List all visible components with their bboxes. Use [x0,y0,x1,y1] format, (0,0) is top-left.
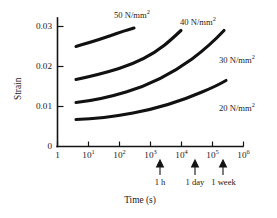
curve-label-40-exp: 2 [213,15,216,22]
x-tick-label-10e4: 104 [169,151,194,160]
creep-curve-40 [76,31,181,80]
x-tick-exp-10e4: 4 [184,148,187,155]
x-tick-exp-10e6: 6 [246,148,249,155]
x-tick-label-10e3: 103 [138,151,163,160]
time-marker-label-1week: 1 week [203,178,244,187]
arrow-1day [192,160,199,175]
curve-label-30: 30 N/mm2 [219,56,255,65]
x-tick-label-10e6: 106 [231,151,256,160]
x-tick-base-1: 1 [55,150,60,160]
time-marker-arrows [157,160,227,175]
curve-label-50-base: 50 N/mm [114,10,147,20]
curve-label-50-exp: 2 [147,8,150,15]
x-tick-exp-10e1: 1 [91,148,94,155]
curve-label-20: 20 N/mm2 [219,104,255,113]
curve-label-30-base: 30 N/mm [219,55,252,65]
y-tick-label-0-03: 0.03 [18,22,52,31]
y-axis-title: Strain [14,78,23,100]
curve-label-50: 50 N/mm2 [114,11,150,20]
curve-label-20-exp: 2 [252,101,255,108]
time-marker-label-1h: 1 h [143,178,177,187]
y-tick-label-0-02: 0.02 [18,62,52,71]
curve-label-40-base: 40 N/mm [180,17,213,27]
y-tick-label-0-01: 0.01 [18,102,52,111]
creep-strain-chart: 0.03 0.02 0.01 0 Strain 1 101 102 103 10… [0,0,277,218]
y-tick-label-0: 0 [18,142,52,151]
arrow-1week [220,160,227,175]
x-tick-exp-10e3: 3 [153,148,156,155]
curve-label-30-exp: 2 [252,53,255,60]
x-tick-exp-10e2: 2 [122,148,125,155]
curve-label-40: 40 N/mm2 [180,18,216,27]
y-axis-ticks [58,27,64,107]
x-tick-label-10e1: 101 [76,151,101,160]
x-axis-title: Time (s) [105,196,175,205]
x-tick-label-10e5: 105 [200,151,225,160]
arrow-1h [157,160,164,175]
creep-curve-50 [76,28,134,47]
x-tick-label-1: 1 [45,151,70,160]
x-tick-exp-10e5: 5 [215,148,218,155]
curve-label-20-base: 20 N/mm [219,103,252,113]
x-tick-label-10e2: 102 [107,151,132,160]
